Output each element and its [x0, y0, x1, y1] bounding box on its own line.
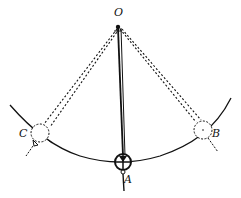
label-b: B [211, 127, 220, 140]
label-o: O [114, 6, 123, 19]
bob-c [26, 124, 52, 156]
label-c: C [19, 127, 28, 140]
label-a: A [123, 173, 132, 186]
pendulum-rod [118, 28, 125, 156]
string-to-b [120, 29, 201, 122]
pendulum-diagram: O A B C [0, 0, 241, 198]
string-to-c [44, 29, 119, 127]
